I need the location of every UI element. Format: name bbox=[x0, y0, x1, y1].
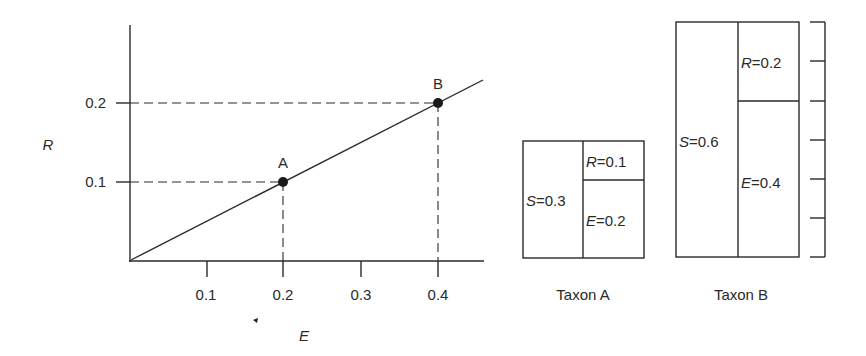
scale-bar bbox=[810, 22, 825, 257]
taxon-b-diagram: S=0.6 R=0.2 E=0.4 Taxon B bbox=[676, 22, 799, 303]
y-tick-label-0.2: 0.2 bbox=[85, 94, 106, 111]
taxon-b-caption: Taxon B bbox=[714, 286, 768, 303]
y-axis-label: R bbox=[43, 136, 54, 153]
taxon-a-diagram: S=0.3 R=0.1 E=0.2 Taxon A bbox=[523, 141, 644, 303]
taxon-a-r-label: R=0.1 bbox=[586, 153, 626, 170]
taxon-b-e-label: E=0.4 bbox=[741, 174, 781, 191]
x-axis-label: E bbox=[299, 327, 310, 344]
point-a bbox=[278, 177, 288, 187]
taxon-a-e-label: E=0.2 bbox=[586, 212, 626, 229]
point-b bbox=[433, 98, 443, 108]
point-a-label: A bbox=[278, 154, 288, 171]
taxon-a-caption: Taxon A bbox=[556, 286, 609, 303]
regression-line bbox=[131, 80, 483, 260]
taxon-b-s-label: S=0.6 bbox=[679, 133, 719, 150]
x-tick-label-0.2: 0.2 bbox=[273, 286, 294, 303]
x-tick-label-0.4: 0.4 bbox=[428, 286, 449, 303]
r-vs-e-plot: A B 0.2 0.1 0.1 0.2 0.3 0.4 R E bbox=[43, 25, 484, 344]
taxon-b-r-label: R=0.2 bbox=[741, 54, 781, 71]
x-tick-label-0.3: 0.3 bbox=[351, 286, 372, 303]
point-b-label: B bbox=[433, 75, 443, 92]
x-tick-label-0.1: 0.1 bbox=[196, 286, 217, 303]
taxon-a-s-label: S=0.3 bbox=[526, 192, 566, 209]
ink-speck bbox=[253, 318, 258, 323]
figure: A B 0.2 0.1 0.1 0.2 0.3 0.4 R E S=0.3 R=… bbox=[0, 0, 866, 356]
y-tick-label-0.1: 0.1 bbox=[85, 173, 106, 190]
